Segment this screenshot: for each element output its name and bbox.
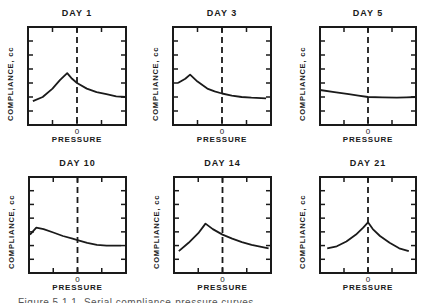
y-axis-label: COMPLIANCE, cc	[152, 195, 161, 269]
x-axis-label: PRESSURE	[182, 135, 262, 144]
x-axis-label: PRESSURE	[38, 283, 118, 292]
y-axis-label: COMPLIANCE, cc	[6, 47, 15, 121]
y-axis-label: COMPLIANCE, cc	[7, 195, 16, 269]
plot-area-day-14	[172, 175, 273, 275]
y-axis-label: COMPLIANCE, cc	[298, 195, 307, 269]
compliance-curve	[327, 222, 409, 251]
plot-area-day-1	[26, 25, 128, 127]
figure-caption: Figure 5.1.1. Serial compliance-pressure…	[18, 297, 254, 308]
x-axis-label: PRESSURE	[183, 283, 263, 292]
panel-title-day-10: DAY 10	[29, 158, 126, 168]
panel-title-day-1: DAY 1	[28, 8, 126, 18]
x-axis-label: PRESSURE	[328, 283, 408, 292]
panel-title-day-3: DAY 3	[173, 8, 271, 18]
panel-title-day-5: DAY 5	[320, 8, 416, 18]
panel-title-day-14: DAY 14	[174, 158, 271, 168]
x-axis-label: PRESSURE	[37, 135, 117, 144]
compliance-curve	[30, 228, 121, 246]
y-axis-label: COMPLIANCE, cc	[298, 47, 307, 121]
plot-area-day-21	[318, 175, 418, 275]
panel-title-day-21: DAY 21	[320, 158, 416, 168]
plot-area-day-10	[27, 175, 128, 275]
x-axis-label: PRESSURE	[328, 135, 408, 144]
compliance-curve	[179, 224, 269, 252]
compliance-curve	[33, 73, 126, 101]
plot-area-day-3	[171, 25, 273, 127]
y-axis-label: COMPLIANCE, cc	[151, 47, 160, 121]
plot-area-day-5	[318, 25, 418, 127]
